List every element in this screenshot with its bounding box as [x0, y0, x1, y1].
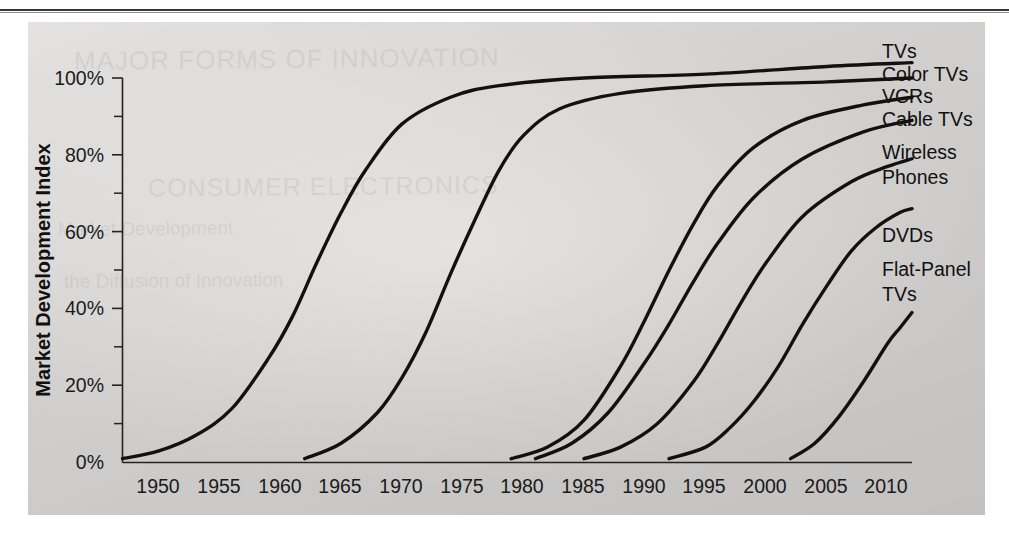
x-tick-label: 2005 [804, 475, 848, 497]
x-tick-label: 1950 [136, 475, 180, 497]
curve-vcrs [511, 97, 912, 458]
series-label-vcrs: VCRs [882, 85, 933, 107]
series-label-flat-panel-tvs: Flat-Panel TVs [882, 258, 976, 305]
x-tick-label: 1995 [682, 475, 726, 497]
chart-axes [123, 78, 913, 463]
y-tick-label: 20% [65, 374, 104, 396]
x-tick-label: 1975 [440, 475, 484, 497]
curve-dvds [669, 209, 912, 459]
x-tick-label: 2000 [743, 475, 787, 497]
series-label-line: Wireless [882, 141, 957, 163]
x-tick-label: 1990 [622, 475, 666, 497]
y-tick-label: 0% [76, 451, 104, 473]
x-tick-label: 1965 [318, 475, 362, 497]
curve-color-tvs [305, 78, 912, 459]
market-development-index-chart: 100% 80% 60% 40% 20% 0% Market Developme… [0, 0, 1009, 541]
x-tick-label: 1980 [500, 475, 544, 497]
series-label-color-tvs: Color TVs [882, 63, 969, 85]
y-axis-tick-labels: 100% 80% 60% 40% 20% 0% [54, 67, 104, 473]
x-tick-label: 1985 [561, 475, 605, 497]
y-axis-title: Market Development Index [32, 143, 54, 396]
x-tick-label: 1960 [258, 475, 302, 497]
series-label-line: TVs [882, 283, 917, 305]
series-label-line: Flat-Panel [882, 258, 971, 280]
series-label-tvs: TVs [882, 40, 917, 62]
x-tick-label: 2010 [864, 475, 908, 497]
x-axis-tick-labels: 1950 1955 1960 1965 1970 1975 1980 1985 … [136, 475, 908, 497]
y-tick-label: 60% [65, 221, 104, 243]
series-label-dvds: DVDs [882, 224, 933, 246]
x-tick-label: 1955 [197, 475, 241, 497]
chart-curves [123, 63, 913, 459]
page-background: MAJOR FORMS OF INNOVATION CONSUMER ELECT… [0, 0, 1009, 541]
curve-tvs [123, 63, 913, 459]
y-tick-label: 80% [65, 144, 104, 166]
series-labels: TVs Color TVs VCRs Cable TVs Wireless Ph… [882, 40, 976, 305]
x-tick-label: 1970 [379, 475, 423, 497]
series-label-cable-tvs: Cable TVs [882, 108, 973, 130]
y-axis-ticks [112, 78, 123, 424]
series-label-line: Phones [882, 166, 948, 188]
y-tick-label: 40% [65, 297, 104, 319]
curve-flat-panel-tvs [791, 313, 912, 459]
y-tick-label: 100% [54, 67, 104, 89]
